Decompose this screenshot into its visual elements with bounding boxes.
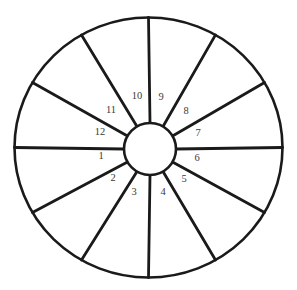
spoke-line-9 [149,175,151,278]
spoke-line-3 [149,18,151,124]
spoke-line-6 [15,148,125,150]
sector-label-6: 6 [194,152,199,163]
sector-label-10: 10 [132,90,143,101]
sector-label-9: 9 [158,91,163,102]
hub-circle [124,123,176,175]
sector-label-3: 3 [131,186,136,197]
sector-label-11: 11 [106,104,116,115]
sector-label-4: 4 [160,186,166,197]
spoke-line-8 [82,172,138,261]
wheel-diagram-canvas: 123456789101112 [0,0,297,290]
wheel-diagram: 123456789101112 [0,0,297,290]
spoke-line-0 [176,148,283,150]
sector-label-1: 1 [98,150,103,161]
sector-label-8: 8 [183,105,188,116]
spoke-line-10 [163,172,216,261]
sector-label-5: 5 [181,173,186,184]
sector-label-2: 2 [110,172,115,183]
spoke-line-2 [163,35,216,127]
sector-label-7: 7 [195,127,200,138]
spoke-line-11 [173,162,265,213]
spoke-line-7 [32,162,127,213]
sector-label-12: 12 [95,126,106,137]
